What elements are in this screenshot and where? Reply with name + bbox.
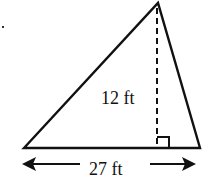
- stray-mark: [2, 26, 4, 28]
- height-label: 12 ft: [101, 89, 135, 107]
- right-angle-marker: [157, 137, 169, 148]
- base-label: 27 ft: [89, 160, 123, 178]
- triangle: [24, 3, 200, 148]
